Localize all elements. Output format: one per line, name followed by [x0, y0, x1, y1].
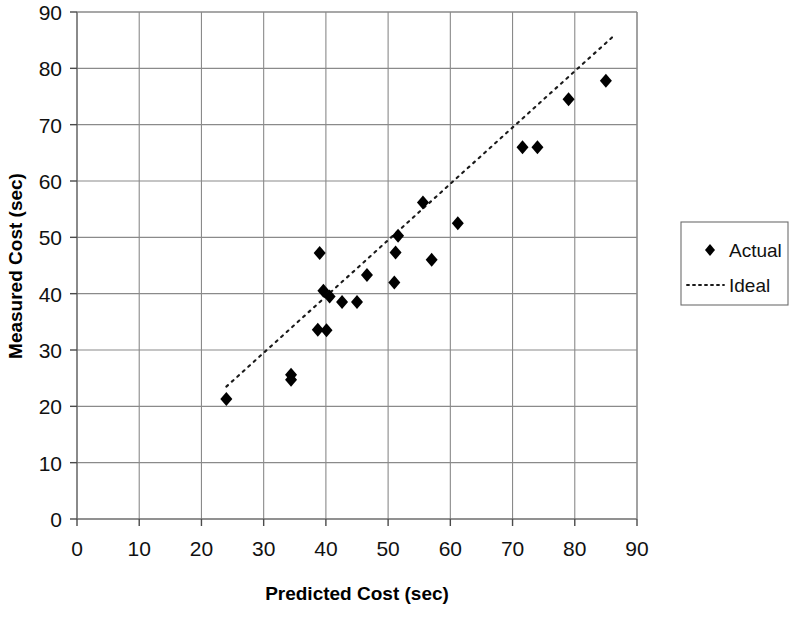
- x-tick-label: 70: [501, 537, 524, 560]
- y-tick-label: 70: [39, 114, 62, 137]
- legend-label-actual: Actual: [729, 240, 782, 261]
- x-tick-label: 30: [252, 537, 275, 560]
- plot-background: [77, 12, 637, 519]
- y-tick-label: 50: [39, 226, 62, 249]
- x-tick-label: 50: [376, 537, 399, 560]
- x-tick-label: 90: [625, 537, 648, 560]
- x-tick-label: 80: [563, 537, 586, 560]
- x-tick-label: 0: [71, 537, 83, 560]
- y-tick-label: 0: [50, 508, 62, 531]
- y-tick-label: 10: [39, 452, 62, 475]
- chart-canvas: 0102030405060708090 0102030405060708090 …: [0, 0, 795, 621]
- legend-label-ideal: Ideal: [729, 275, 770, 296]
- y-tick-label: 30: [39, 339, 62, 362]
- x-axis-title: Predicted Cost (sec): [265, 583, 449, 604]
- x-axis-tick-labels: 0102030405060708090: [71, 537, 649, 560]
- x-tick-label: 10: [128, 537, 151, 560]
- y-tick-label: 90: [39, 1, 62, 24]
- y-axis-tick-labels: 0102030405060708090: [39, 1, 62, 531]
- y-tick-label: 20: [39, 395, 62, 418]
- y-tick-label: 60: [39, 170, 62, 193]
- chart-legend: Actual Ideal: [681, 222, 788, 305]
- y-tick-label: 80: [39, 57, 62, 80]
- x-tick-label: 40: [314, 537, 337, 560]
- y-tick-label: 40: [39, 283, 62, 306]
- x-tick-label: 20: [190, 537, 213, 560]
- scatter-chart: 0102030405060708090 0102030405060708090 …: [0, 0, 795, 621]
- x-tick-label: 60: [439, 537, 462, 560]
- y-axis-title: Measured Cost (sec): [5, 173, 26, 359]
